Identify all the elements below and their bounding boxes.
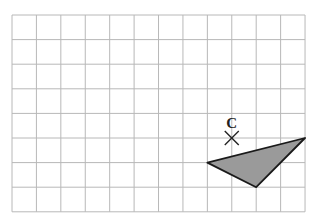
grid-diagram: C xyxy=(0,0,319,224)
point-c-label: C xyxy=(226,115,237,131)
